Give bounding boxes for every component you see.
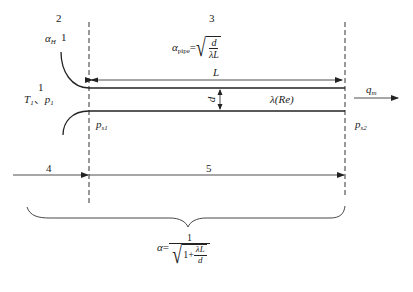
region-label-3: 3 (209, 13, 215, 24)
region-label-5: 5 (206, 163, 212, 174)
diameter-arrowhead-top (218, 89, 223, 95)
alpha-pipe-sqrt: √dλL (196, 36, 221, 60)
mass-flow-label: qm (366, 84, 377, 97)
region-label-2: 2 (56, 13, 62, 24)
inlet-state-label: T1、p1 (24, 94, 54, 107)
alpha-pipe-numerator: d (209, 37, 218, 49)
separator: 、 (34, 93, 45, 105)
region-label-1-left: 1 (38, 82, 44, 93)
alpha-pipe-subscript: pipe (178, 47, 190, 55)
alpha-subscript: H (51, 38, 56, 46)
p-s1-subscript: s1 (102, 124, 108, 132)
diameter-label: d (206, 97, 217, 103)
p-s2-subscript: s2 (361, 124, 367, 132)
alpha-total-sqrt: √1+λLd (172, 244, 206, 266)
length-label: L (213, 67, 219, 78)
alpha-total-inner-denominator: d (196, 256, 205, 266)
region-label-4: 4 (46, 163, 52, 174)
alpha-pipe-formula: αpipe=√dλL (172, 36, 221, 60)
inlet-curve-top (61, 52, 89, 88)
inlet-curve-bottom (63, 111, 89, 135)
alpha-pipe-denominator: λL (207, 49, 221, 60)
inlet-alpha-label: αH (45, 33, 56, 46)
outlet-static-pressure-label: ps2 (355, 119, 367, 132)
diameter-arrowhead-bottom (218, 104, 223, 110)
curly-brace (27, 206, 345, 227)
pressure-subscript: 1 (50, 99, 54, 107)
length-arrowhead-left (90, 78, 98, 83)
alpha-total-formula: α=1√1+λLd (157, 232, 210, 266)
region-label-1-top: 1 (61, 32, 67, 43)
q-subscript: m (372, 89, 377, 97)
inlet-static-pressure-label: ps1 (96, 119, 108, 132)
friction-factor-label: λ(Re) (270, 94, 294, 105)
alpha-total-one-plus: 1+ (183, 249, 194, 260)
